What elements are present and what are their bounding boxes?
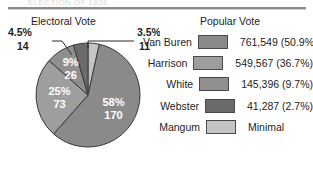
legend-color-swatch [205,99,235,113]
legend-color-swatch [193,56,223,70]
cut-off-caption: ELECTION OF 1836 [28,0,108,7]
legend-row: Webster41,287 (2.7%) [143,95,313,116]
legend-candidate-name: White [143,78,199,90]
legend-candidate-name: Webster [143,100,205,112]
slice-value-white: 26 [65,69,77,81]
slice-percent-white: 9% [63,56,79,68]
callout-percent-webster: 4.5% [8,26,33,38]
legend-row: White145,396 (9.7%) [143,74,313,95]
legend-row: Van Buren761,549 (50.9%) [143,31,313,52]
slice-percent-harrison: 25% [48,85,70,97]
election-figure: ELECTION OF 1836 Electoral Vote Popular … [0,0,313,169]
legend-color-swatch [198,35,228,49]
legend-vote-value: 549,567 (36.7%) [223,57,313,69]
legend-row: Harrison549,567 (36.7%) [143,52,313,73]
legend-vote-value: 145,396 (9.7%) [229,78,313,90]
electoral-vote-pie-chart: 58%17025%739%26 4.5% 14 3.5% 11 Total: 2… [0,24,160,169]
slice-value-van-buren: 170 [104,109,122,121]
slice-percent-van-buren: 58% [102,96,124,108]
popular-vote-legend: Van Buren761,549 (50.9%)Harrison549,567 … [143,31,313,138]
legend-vote-value: 41,287 (2.7%) [235,100,313,112]
legend-candidate-name: Mangum [143,121,206,133]
header-rule-shadow [8,9,306,10]
legend-candidate-name: Van Buren [143,36,198,48]
legend-row: MangumMinimal [143,117,313,138]
legend-color-swatch [206,120,236,134]
popular-vote-heading: Popular Vote [200,15,260,27]
legend-candidate-name: Harrison [143,57,193,69]
pie-svg: 58%17025%739%26 4.5% 14 3.5% 11 [0,24,160,169]
legend-vote-value: Minimal [236,121,284,133]
legend-vote-value: 761,549 (50.9%) [228,36,313,48]
slice-value-harrison: 73 [53,98,65,110]
callout-value-webster: 14 [17,40,29,52]
legend-color-swatch [199,77,229,91]
